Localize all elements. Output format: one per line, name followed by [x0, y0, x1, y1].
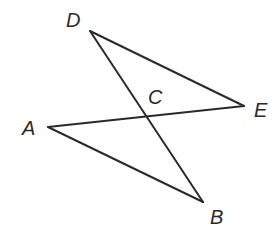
label-point-a: A: [21, 117, 35, 139]
geometry-diagram: D C E A B: [0, 0, 280, 243]
segment-ab: [48, 127, 203, 202]
diagram-svg: D C E A B: [0, 0, 280, 243]
label-point-c: C: [148, 86, 163, 108]
segment-de: [90, 31, 244, 106]
label-point-b: B: [210, 206, 223, 228]
label-point-d: D: [66, 9, 80, 31]
segment-ae: [48, 106, 244, 127]
label-point-e: E: [254, 99, 268, 121]
